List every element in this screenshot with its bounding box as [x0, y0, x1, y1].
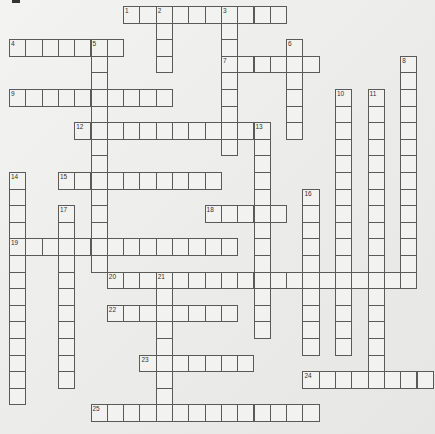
crossword-cell[interactable] — [335, 155, 352, 173]
crossword-cell[interactable] — [400, 371, 417, 389]
crossword-cell[interactable] — [270, 56, 287, 74]
crossword-cell[interactable]: 19 — [9, 238, 26, 256]
crossword-cell[interactable] — [302, 222, 319, 240]
crossword-cell[interactable] — [335, 238, 352, 256]
crossword-cell[interactable]: 18 — [205, 205, 222, 223]
crossword-cell[interactable] — [58, 288, 75, 306]
crossword-cell[interactable] — [172, 404, 189, 422]
crossword-cell[interactable]: 21 — [156, 272, 173, 290]
crossword-cell[interactable] — [335, 106, 352, 124]
crossword-cell[interactable]: 1 — [123, 6, 140, 24]
crossword-cell[interactable] — [156, 338, 173, 356]
crossword-cell[interactable] — [368, 321, 385, 339]
crossword-cell[interactable] — [221, 205, 238, 223]
crossword-cell[interactable] — [302, 56, 319, 74]
crossword-cell[interactable] — [368, 222, 385, 240]
crossword-cell[interactable] — [123, 272, 140, 290]
crossword-cell[interactable] — [254, 56, 271, 74]
crossword-cell[interactable]: 4 — [9, 39, 26, 57]
crossword-cell[interactable] — [25, 238, 42, 256]
crossword-cell[interactable] — [156, 56, 173, 74]
crossword-cell[interactable] — [270, 272, 287, 290]
crossword-cell[interactable] — [302, 255, 319, 273]
crossword-cell[interactable]: 23 — [139, 355, 156, 373]
crossword-cell[interactable] — [58, 321, 75, 339]
crossword-cell[interactable] — [400, 255, 417, 273]
crossword-cell[interactable] — [400, 189, 417, 207]
crossword-cell[interactable] — [9, 288, 26, 306]
crossword-cell[interactable] — [400, 155, 417, 173]
crossword-cell[interactable] — [368, 172, 385, 190]
crossword-cell[interactable] — [172, 238, 189, 256]
crossword-cell[interactable] — [9, 272, 26, 290]
crossword-cell[interactable] — [400, 172, 417, 190]
crossword-cell[interactable]: 24 — [302, 371, 319, 389]
crossword-cell[interactable] — [9, 222, 26, 240]
crossword-cell[interactable] — [9, 305, 26, 323]
crossword-cell[interactable] — [42, 238, 59, 256]
crossword-cell[interactable] — [221, 89, 238, 107]
crossword-cell[interactable] — [335, 189, 352, 207]
crossword-cell[interactable] — [156, 122, 173, 140]
crossword-cell[interactable] — [58, 39, 75, 57]
crossword-cell[interactable] — [172, 305, 189, 323]
crossword-cell[interactable] — [237, 205, 254, 223]
crossword-cell[interactable] — [221, 139, 238, 157]
crossword-cell[interactable] — [205, 238, 222, 256]
crossword-cell[interactable] — [400, 89, 417, 107]
crossword-cell[interactable] — [400, 238, 417, 256]
crossword-cell[interactable] — [384, 371, 401, 389]
crossword-cell[interactable]: 17 — [58, 205, 75, 223]
crossword-cell[interactable] — [156, 39, 173, 57]
crossword-cell[interactable] — [302, 321, 319, 339]
crossword-cell[interactable] — [335, 122, 352, 140]
crossword-cell[interactable] — [74, 172, 91, 190]
crossword-cell[interactable]: 15 — [58, 172, 75, 190]
crossword-cell[interactable] — [139, 6, 156, 24]
crossword-cell[interactable] — [107, 404, 124, 422]
crossword-cell[interactable] — [254, 222, 271, 240]
crossword-cell[interactable] — [335, 272, 352, 290]
crossword-cell[interactable] — [205, 355, 222, 373]
crossword-cell[interactable] — [237, 355, 254, 373]
crossword-cell[interactable] — [335, 172, 352, 190]
crossword-cell[interactable] — [368, 189, 385, 207]
crossword-cell[interactable] — [368, 106, 385, 124]
crossword-cell[interactable] — [91, 222, 108, 240]
crossword-cell[interactable] — [156, 238, 173, 256]
crossword-cell[interactable] — [123, 172, 140, 190]
crossword-cell[interactable] — [91, 122, 108, 140]
crossword-cell[interactable] — [237, 6, 254, 24]
crossword-cell[interactable] — [351, 272, 368, 290]
crossword-cell[interactable] — [58, 355, 75, 373]
crossword-cell[interactable] — [91, 106, 108, 124]
crossword-cell[interactable] — [156, 23, 173, 41]
crossword-cell[interactable] — [335, 288, 352, 306]
crossword-cell[interactable] — [58, 222, 75, 240]
crossword-cell[interactable] — [107, 39, 124, 57]
crossword-cell[interactable] — [107, 122, 124, 140]
crossword-cell[interactable] — [400, 272, 417, 290]
crossword-cell[interactable] — [58, 238, 75, 256]
crossword-cell[interactable] — [254, 288, 271, 306]
crossword-cell[interactable] — [139, 238, 156, 256]
crossword-cell[interactable] — [254, 155, 271, 173]
crossword-cell[interactable] — [400, 122, 417, 140]
crossword-cell[interactable] — [368, 205, 385, 223]
crossword-cell[interactable] — [91, 89, 108, 107]
crossword-cell[interactable] — [221, 238, 238, 256]
crossword-cell[interactable] — [172, 355, 189, 373]
crossword-cell[interactable] — [123, 238, 140, 256]
crossword-cell[interactable] — [254, 139, 271, 157]
crossword-cell[interactable] — [156, 404, 173, 422]
crossword-cell[interactable] — [384, 272, 401, 290]
crossword-cell[interactable] — [42, 89, 59, 107]
crossword-cell[interactable] — [237, 56, 254, 74]
crossword-cell[interactable] — [254, 238, 271, 256]
crossword-cell[interactable] — [270, 6, 287, 24]
crossword-cell[interactable] — [139, 89, 156, 107]
crossword-cell[interactable] — [172, 172, 189, 190]
crossword-cell[interactable] — [368, 255, 385, 273]
crossword-cell[interactable]: 6 — [286, 39, 303, 57]
crossword-cell[interactable] — [9, 338, 26, 356]
